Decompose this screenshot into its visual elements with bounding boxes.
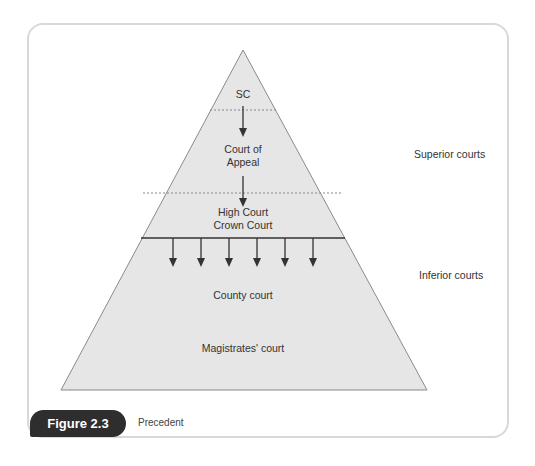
level-high-crown-label: High Court Crown Court <box>193 206 293 232</box>
level-county-label: County court <box>183 289 303 302</box>
level-sc-label: SC <box>213 88 273 101</box>
label-line: Court of <box>203 143 283 156</box>
court-hierarchy-pyramid <box>0 0 535 466</box>
superior-courts-label: Superior courts <box>414 148 485 160</box>
label-line: Magistrates' court <box>173 342 313 355</box>
figure-caption: Precedent <box>138 417 184 428</box>
label-line: High Court <box>193 206 293 219</box>
level-magistrates-label: Magistrates' court <box>173 342 313 355</box>
label-line: Crown Court <box>193 219 293 232</box>
label-line: County court <box>183 289 303 302</box>
label-line: SC <box>213 88 273 101</box>
level-court-of-appeal-label: Court of Appeal <box>203 143 283 169</box>
figure-number-badge: Figure 2.3 <box>30 410 126 437</box>
label-line: Appeal <box>203 156 283 169</box>
inferior-courts-label: Inferior courts <box>419 269 483 281</box>
